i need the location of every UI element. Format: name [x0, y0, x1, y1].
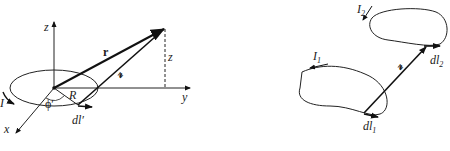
separation-vector-right	[364, 47, 426, 113]
separation-label-right: 𝓇	[397, 59, 404, 73]
separation-vector-label: 𝓇	[117, 67, 124, 81]
two-loops-diagram: I1 I2 𝓇 dl1 dl2	[299, 2, 447, 135]
loop-1	[299, 66, 387, 115]
dl-prime-arrow	[78, 106, 92, 107]
current-2-label: I2	[356, 2, 365, 18]
dl2-label: dl2	[430, 53, 443, 69]
dl-prime-label: dl′	[72, 113, 84, 127]
biot-savart-loop-diagram: z y x r 𝓇 z R ϕ′ I dl′	[0, 20, 190, 136]
position-vector-r	[54, 29, 164, 88]
loop-2	[370, 9, 447, 46]
current-label: I	[0, 96, 5, 110]
diagram-canvas: z y x r 𝓇 z R ϕ′ I dl′ I1 I2 𝓇 dl1 dl2	[0, 0, 450, 151]
z-axis-label: z	[43, 20, 49, 34]
angle-label: ϕ′	[45, 97, 54, 111]
x-axis-label: x	[3, 122, 10, 136]
y-axis-label: y	[181, 90, 188, 104]
radius-label: R	[68, 88, 77, 102]
origin-point	[52, 86, 56, 90]
height-label: z	[167, 50, 173, 64]
current-1-label: I1	[312, 49, 321, 65]
vector-r-label: r	[103, 45, 109, 59]
dl1-label: dl1	[363, 119, 376, 135]
